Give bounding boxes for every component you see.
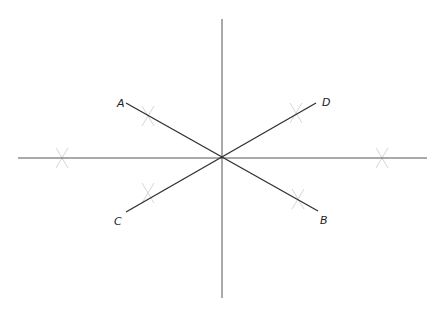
geometry-diagram: A D C B (0, 0, 446, 315)
construction-arc-mark (290, 103, 302, 123)
point-label-b: B (320, 214, 328, 227)
point-label-d: D (322, 96, 330, 109)
construction-arc-mark (292, 189, 304, 209)
point-label-a: A (116, 97, 125, 110)
point-label-c: C (114, 215, 122, 228)
